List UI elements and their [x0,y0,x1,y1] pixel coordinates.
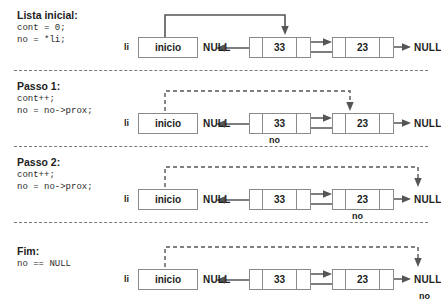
node-next-cell [297,189,311,210]
node-prev-cell [332,113,346,134]
node-23: 23 [332,269,394,290]
null-label-right: NULL [414,194,441,205]
section-passo-2: Passo 2: cont++; no = no->prox; li inici… [0,152,441,220]
node-23: 23 [332,37,394,58]
no-pointer-label: no [352,211,363,221]
node-prev-cell [249,269,263,290]
null-label-left: NULL [203,42,230,53]
null-label-left: NULL [203,194,230,205]
node-next-cell [297,113,311,134]
node-23: 23 [332,113,394,134]
node-value-cell: 23 [346,189,380,210]
null-label-right: NULL [414,274,441,285]
li-label: li [124,42,129,52]
section-passo-1: Passo 1: cont++; no = no->prox; li inici… [0,76,441,144]
node-prev-cell [249,113,263,134]
node-23: 23 [332,189,394,210]
no-pointer-label: no [269,135,280,145]
head-box-inicio: inicio [138,269,198,290]
section-fim: Fim: no == NULL li inicio NULL 33 23 [0,232,441,304]
node-next-cell [380,113,394,134]
node-next-cell [297,269,311,290]
li-label: li [124,194,129,204]
node-33: 33 [249,189,311,210]
li-label: li [124,274,129,284]
node-next-cell [297,37,311,58]
null-label-right: NULL [414,118,441,129]
node-33: 33 [249,269,311,290]
head-box-inicio: inicio [138,189,198,210]
linked-list-diagram: li inicio NULL 33 23 NULL no [0,232,441,294]
node-33: 33 [249,113,311,134]
node-value-cell: 33 [263,113,297,134]
null-label-right: NULL [414,42,441,53]
node-prev-cell [332,189,346,210]
node-prev-cell [249,189,263,210]
node-prev-cell [332,269,346,290]
section-divider [14,222,428,223]
node-value-cell: 33 [263,269,297,290]
head-box-inicio: inicio [138,113,198,134]
node-next-cell [380,189,394,210]
linked-list-diagram: li inicio NULL 33 23 NULL no [0,76,441,138]
linked-list-diagram: li inicio NULL 33 23 NULL [0,0,441,62]
null-label-left: NULL [203,274,230,285]
section-divider [14,70,428,71]
linked-list-diagram: li inicio NULL 33 23 NULL no [0,152,441,214]
section-divider [14,146,428,147]
node-value-cell: 23 [346,113,380,134]
node-value-cell: 23 [346,37,380,58]
node-value-cell: 33 [263,37,297,58]
no-pointer-label: no [419,291,430,301]
null-label-left: NULL [203,118,230,129]
node-prev-cell [332,37,346,58]
head-box-inicio: inicio [138,37,198,58]
node-value-cell: 33 [263,189,297,210]
node-prev-cell [249,37,263,58]
li-label: li [124,118,129,128]
node-next-cell [380,269,394,290]
section-lista-inicial: Lista inicial: cont = 0; no = *li; li in… [0,0,441,68]
node-33: 33 [249,37,311,58]
node-value-cell: 23 [346,269,380,290]
node-next-cell [380,37,394,58]
